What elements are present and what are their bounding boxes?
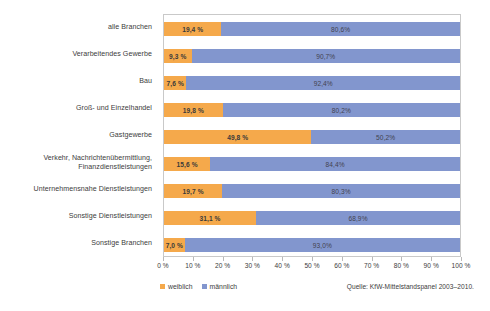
x-axis-tick-labels: 0 %10 %20 %30 %40 %50 %60 %70 %80 %90 %1…: [163, 262, 461, 274]
bar-segment-weiblich[interactable]: 7,6 %: [164, 76, 186, 90]
category-label: Verkehr, Nachrichtenübermittlung, Finanz…: [0, 154, 158, 172]
source-note: Quelle: KfW-Mittelstandspanel 2003–2010.: [347, 283, 474, 290]
x-axis-tick-label: 40 %: [275, 262, 290, 269]
x-axis-tick: [163, 257, 164, 261]
legend-item[interactable]: männlich: [202, 283, 238, 290]
bar-row[interactable]: 19,8 %80,2%: [164, 103, 460, 117]
bar-value-maennlich: 80,2%: [223, 106, 460, 113]
bar-segment-maennlich[interactable]: 84,4%: [210, 157, 460, 171]
bar-row[interactable]: 31,1 %68,9%: [164, 211, 460, 225]
category-label: Unternehmensnahe Dienstleistungen: [0, 185, 158, 194]
x-axis-tick: [431, 257, 432, 261]
x-axis-tick-label: 10 %: [185, 262, 200, 269]
bar-segment-maennlich[interactable]: 80,2%: [223, 103, 460, 117]
bar-segment-weiblich[interactable]: 15,6 %: [164, 157, 210, 171]
bar-value-maennlich: 90,7%: [192, 52, 460, 59]
bar-value-maennlich: 93,0%: [185, 241, 460, 248]
bar-row[interactable]: 9,3 %90,7%: [164, 49, 460, 63]
x-axis-tick-label: 80 %: [394, 262, 409, 269]
x-axis-tick-label: 50 %: [304, 262, 319, 269]
x-axis-tick: [252, 257, 253, 261]
bar-row[interactable]: 49,8 %50,2%: [164, 130, 460, 144]
x-axis-ticks: [163, 257, 461, 261]
x-axis-tick: [461, 257, 462, 261]
plot-area: 19,4 %80,6%9,3 %90,7%7,6 %92,4%19,8 %80,…: [163, 14, 461, 257]
category-label: Groß- und Einzelhandel: [0, 104, 158, 113]
x-axis-tick: [401, 257, 402, 261]
category-label: Gastgewerbe: [0, 131, 158, 140]
legend-swatch-icon: [202, 284, 207, 289]
bar-segment-maennlich[interactable]: 68,9%: [256, 211, 460, 225]
bar-segment-weiblich[interactable]: 7,0 %: [164, 238, 185, 252]
bar-segment-weiblich[interactable]: 19,7 %: [164, 184, 222, 198]
chart-legend: weiblichmännlich: [160, 283, 237, 290]
bar-value-weiblich: 7,6 %: [164, 79, 186, 86]
bar-segment-weiblich[interactable]: 19,8 %: [164, 103, 223, 117]
x-axis-tick-label: 30 %: [245, 262, 260, 269]
x-axis-tick: [312, 257, 313, 261]
bar-segment-maennlich[interactable]: 93,0%: [185, 238, 460, 252]
x-axis-tick-label: 20 %: [215, 262, 230, 269]
legend-swatch-icon: [160, 284, 165, 289]
bar-row[interactable]: 15,6 %84,4%: [164, 157, 460, 171]
bar-value-weiblich: 19,7 %: [164, 187, 222, 194]
bar-value-weiblich: 19,8 %: [164, 106, 223, 113]
x-axis-tick: [193, 257, 194, 261]
x-axis-tick-label: 0 %: [157, 262, 169, 269]
x-axis-tick: [282, 257, 283, 261]
x-axis-tick-label: 70 %: [364, 262, 379, 269]
bar-value-weiblich: 49,8 %: [164, 133, 311, 140]
bar-value-maennlich: 80,3%: [222, 187, 460, 194]
bar-value-maennlich: 84,4%: [210, 160, 460, 167]
bar-row[interactable]: 7,6 %92,4%: [164, 76, 460, 90]
category-label: Bau: [0, 77, 158, 86]
category-label: Sonstige Dienstleistungen: [0, 212, 158, 221]
category-label: Verarbeitendes Gewerbe: [0, 50, 158, 59]
bar-value-maennlich: 50,2%: [311, 133, 460, 140]
bar-value-maennlich: 80,6%: [221, 25, 460, 32]
x-axis-tick: [223, 257, 224, 261]
bar-segment-weiblich[interactable]: 19,4 %: [164, 22, 221, 36]
bar-value-weiblich: 15,6 %: [164, 160, 210, 167]
x-axis-tick-label: 60 %: [334, 262, 349, 269]
bar-segment-maennlich[interactable]: 92,4%: [186, 76, 460, 90]
bar-segment-weiblich[interactable]: 31,1 %: [164, 211, 256, 225]
bar-segment-maennlich[interactable]: 90,7%: [192, 49, 460, 63]
x-axis-tick: [342, 257, 343, 261]
bar-segment-weiblich[interactable]: 49,8 %: [164, 130, 311, 144]
legend-label: männlich: [210, 283, 238, 290]
category-label: alle Branchen: [0, 23, 158, 32]
bar-segment-weiblich[interactable]: 9,3 %: [164, 49, 192, 63]
stacked-bar-chart: alle BranchenVerarbeitendes GewerbeBauGr…: [0, 0, 490, 311]
legend-label: weiblich: [168, 283, 193, 290]
bar-value-maennlich: 92,4%: [186, 79, 460, 86]
x-axis-tick: [372, 257, 373, 261]
legend-item[interactable]: weiblich: [160, 283, 193, 290]
bar-value-maennlich: 68,9%: [256, 214, 460, 221]
x-axis-tick-label: 100 %: [452, 262, 471, 269]
category-axis-labels: alle BranchenVerarbeitendes GewerbeBauGr…: [0, 14, 158, 257]
bar-value-weiblich: 31,1 %: [164, 214, 256, 221]
x-axis-tick-label: 90 %: [424, 262, 439, 269]
bar-value-weiblich: 19,4 %: [164, 25, 221, 32]
category-label: Sonstige Branchen: [0, 239, 158, 248]
bar-value-weiblich: 9,3 %: [164, 52, 192, 59]
bar-segment-maennlich[interactable]: 80,6%: [221, 22, 460, 36]
bar-segment-maennlich[interactable]: 80,3%: [222, 184, 460, 198]
bar-row[interactable]: 7,0 %93,0%: [164, 238, 460, 252]
bar-value-weiblich: 7,0 %: [164, 241, 185, 248]
bar-segment-maennlich[interactable]: 50,2%: [311, 130, 460, 144]
bar-row[interactable]: 19,7 %80,3%: [164, 184, 460, 198]
bar-row[interactable]: 19,4 %80,6%: [164, 22, 460, 36]
